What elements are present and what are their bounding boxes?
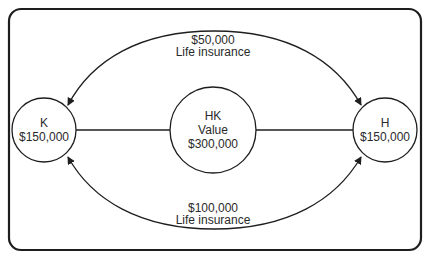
diagram-canvas: K $150,000 HK Value $300,000 H $150,000 … <box>0 0 429 257</box>
node-hk-value: $300,000 <box>188 137 238 151</box>
top-arc-description: Life insurance <box>176 45 251 59</box>
node-h-name: H <box>381 116 390 130</box>
node-hk-name: HK <box>205 109 222 123</box>
node-h-value: $150,000 <box>360 130 410 144</box>
node-k-value: $150,000 <box>19 130 69 144</box>
node-hk-label: Value <box>198 123 228 137</box>
node-hk: HK Value $300,000 <box>170 87 256 173</box>
node-k: K $150,000 <box>12 98 76 162</box>
node-k-name: K <box>40 116 48 130</box>
bottom-arc-description: Life insurance <box>176 213 251 227</box>
node-h: H $150,000 <box>353 98 417 162</box>
